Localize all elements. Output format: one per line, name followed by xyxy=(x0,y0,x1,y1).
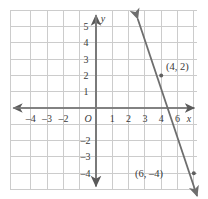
y-tick-label: 3 xyxy=(84,54,89,65)
origin-label: O xyxy=(84,113,91,124)
x-tick-label: 6 xyxy=(175,113,180,124)
x-tick-label: 4 xyxy=(159,113,164,124)
y-tick-label: 4 xyxy=(84,37,89,48)
y-tick-label: –3 xyxy=(80,151,91,162)
y-axis-label: y xyxy=(100,13,106,24)
x-tick-label: 3 xyxy=(142,113,147,124)
graph-canvas: –4 –3 –2 1 2 3 4 6 5 4 3 2 1 –2 –3 –4 O … xyxy=(0,0,208,199)
point-annotation: (6, –4) xyxy=(135,168,163,180)
y-tick-label: 5 xyxy=(84,21,89,32)
point-annotation: (4, 2) xyxy=(166,61,189,73)
y-tick-label: –2 xyxy=(80,135,91,146)
x-tick-label: 1 xyxy=(110,113,115,124)
x-tick-label: –3 xyxy=(41,113,52,124)
coordinate-graph-figure: –4 –3 –2 1 2 3 4 6 5 4 3 2 1 –2 –3 –4 O … xyxy=(0,0,208,199)
data-point-marker xyxy=(159,73,163,77)
x-tick-label: 2 xyxy=(126,113,131,124)
x-tick-label: –4 xyxy=(25,113,36,124)
y-tick-label: 1 xyxy=(84,86,89,97)
y-tick-label: 2 xyxy=(84,70,89,81)
x-tick-label: –2 xyxy=(57,113,68,124)
x-axis-label: x xyxy=(186,113,192,124)
data-point-marker xyxy=(192,171,196,175)
y-tick-label: –4 xyxy=(80,168,91,179)
grid-lines xyxy=(11,10,197,190)
